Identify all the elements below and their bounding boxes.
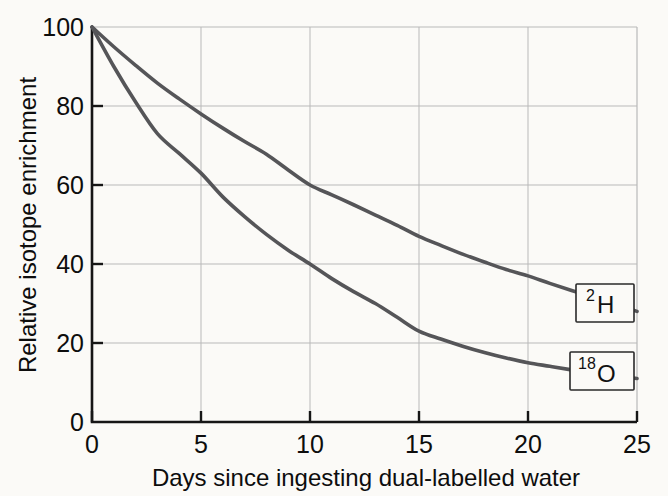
line-chart-svg: 100 80 60 40 20 0 0 5 10 15 20 25 Days s… — [0, 0, 668, 496]
x-tick-label-25: 25 — [623, 430, 651, 458]
legend-superscript-2H: 2 — [586, 287, 595, 304]
x-tick-labels: 0 5 10 15 20 25 — [85, 430, 651, 458]
y-tick-label-40: 40 — [56, 250, 84, 278]
y-tick-label-20: 20 — [56, 329, 84, 357]
plot-background — [92, 27, 637, 422]
series-label-18O: 18 O — [570, 352, 634, 390]
y-axis-title: Relative isotope enrichment — [14, 77, 41, 373]
y-tick-label-0: 0 — [70, 408, 84, 436]
x-tick-label-10: 10 — [296, 430, 324, 458]
series-label-2H: 2 H — [576, 284, 634, 322]
x-tick-label-0: 0 — [85, 430, 99, 458]
y-tick-label-80: 80 — [56, 92, 84, 120]
x-tick-label-5: 5 — [194, 430, 208, 458]
x-tick-label-15: 15 — [405, 430, 433, 458]
y-tick-label-60: 60 — [56, 171, 84, 199]
x-tick-label-20: 20 — [514, 430, 542, 458]
legend-superscript-18O: 18 — [578, 355, 596, 372]
legend-base-2H: H — [597, 291, 614, 318]
y-tick-labels: 100 80 60 40 20 0 — [42, 13, 84, 436]
x-axis-title: Days since ingesting dual-labelled water — [152, 464, 580, 491]
legend-base-18O: O — [597, 360, 616, 387]
y-tick-label-100: 100 — [42, 13, 84, 41]
chart-figure: 100 80 60 40 20 0 0 5 10 15 20 25 Days s… — [0, 0, 668, 496]
